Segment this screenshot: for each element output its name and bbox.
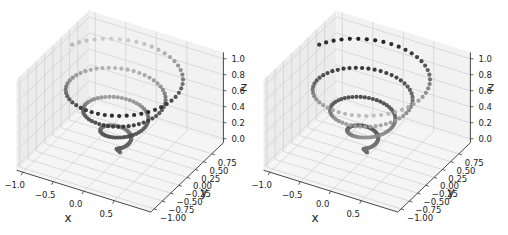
data-point [96, 112, 100, 116]
data-point [424, 91, 428, 95]
data-point [70, 100, 74, 104]
data-point [393, 119, 397, 123]
data-point [317, 100, 321, 104]
x-axis-label: x [311, 211, 318, 225]
z-axis-label: z [488, 80, 494, 94]
data-point [359, 95, 363, 99]
data-point [412, 102, 416, 106]
data-point [344, 122, 348, 126]
data-point [85, 39, 89, 43]
data-point [374, 124, 378, 128]
data-point [419, 59, 423, 63]
y-axis-label: y [447, 185, 454, 199]
data-point [393, 110, 397, 114]
data-point [423, 64, 427, 68]
x-tick-label: 0.5 [346, 209, 360, 219]
x-tick [82, 191, 84, 194]
data-point [150, 45, 154, 49]
data-point [348, 123, 352, 127]
y-axis-label: y [200, 185, 207, 199]
data-point [103, 95, 107, 99]
data-point [78, 71, 82, 75]
data-point [406, 105, 410, 109]
data-point [74, 103, 78, 107]
x-tick-label: −1.0 [4, 180, 25, 190]
data-point [402, 81, 406, 85]
data-point [116, 95, 120, 99]
data-point [137, 122, 141, 126]
z-tick-label: 0.2 [231, 118, 245, 128]
data-point [410, 91, 414, 95]
x-tick-label: −0.5 [35, 190, 56, 200]
x-tick [360, 201, 362, 204]
data-point [326, 106, 330, 110]
data-point [350, 113, 354, 117]
data-point [79, 106, 83, 110]
data-point [428, 77, 432, 81]
data-point [176, 64, 180, 68]
z-tick-label: 0.8 [231, 70, 245, 80]
data-point [143, 73, 147, 77]
data-point [372, 114, 376, 118]
data-point [384, 71, 388, 75]
data-point [426, 86, 430, 90]
data-point [132, 69, 136, 73]
data-point [119, 67, 123, 71]
data-point [389, 121, 393, 125]
data-point [100, 66, 104, 70]
data-point [150, 116, 154, 120]
data-point [107, 66, 111, 70]
data-point [116, 125, 120, 129]
data-point [368, 145, 372, 149]
z-tick-label: 0.2 [478, 118, 492, 128]
data-point [373, 38, 377, 42]
data-point [134, 40, 138, 44]
data-point [146, 119, 150, 123]
data-point [83, 69, 87, 73]
data-point [92, 37, 96, 41]
plot-right: −1.0−0.50.00.5−1.00−0.75−0.50−0.250.000.… [247, 0, 501, 235]
data-point [428, 82, 432, 86]
data-point [421, 95, 425, 99]
data-point [177, 91, 181, 95]
data-point [113, 66, 117, 70]
data-point [410, 51, 414, 55]
data-point [67, 97, 71, 101]
data-point [122, 135, 126, 139]
data-point [346, 95, 350, 99]
data-point [125, 114, 129, 118]
x-tick-label: 0.0 [69, 199, 83, 209]
data-point [77, 40, 81, 44]
data-point [89, 68, 93, 72]
data-point [390, 73, 394, 77]
y-tick [442, 170, 445, 171]
data-point [101, 123, 105, 127]
plot-left: −1.0−0.50.00.5−1.00−0.75−0.50−0.250.000.… [0, 0, 254, 235]
data-point [358, 125, 362, 129]
y-tick [154, 209, 157, 210]
data-point [321, 73, 325, 77]
data-point [389, 42, 393, 46]
y-tick [401, 209, 404, 210]
data-point [339, 37, 343, 41]
data-point [366, 67, 370, 71]
data-point [181, 77, 185, 81]
data-point [181, 82, 185, 86]
data-point [109, 37, 113, 41]
data-point [348, 37, 352, 41]
data-point [364, 114, 368, 118]
z-tick-label: 1.0 [478, 54, 492, 64]
data-point [354, 95, 358, 99]
data-point [165, 102, 169, 106]
data-point [74, 73, 78, 77]
y-tick [187, 177, 190, 178]
data-point [179, 68, 183, 72]
data-point [117, 114, 121, 118]
y-tick [162, 201, 165, 202]
data-point [155, 81, 159, 85]
data-point [126, 38, 130, 42]
z-tick-label: 1.0 [231, 54, 245, 64]
y-tick [171, 193, 174, 194]
data-point [357, 114, 361, 118]
data-point [379, 123, 383, 127]
